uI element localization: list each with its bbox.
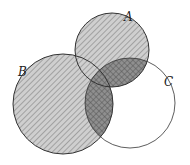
label-c: C [164,75,173,89]
label-b: B [17,65,27,79]
venn-diagram: A B C [0,0,190,165]
label-a: A [123,10,133,24]
